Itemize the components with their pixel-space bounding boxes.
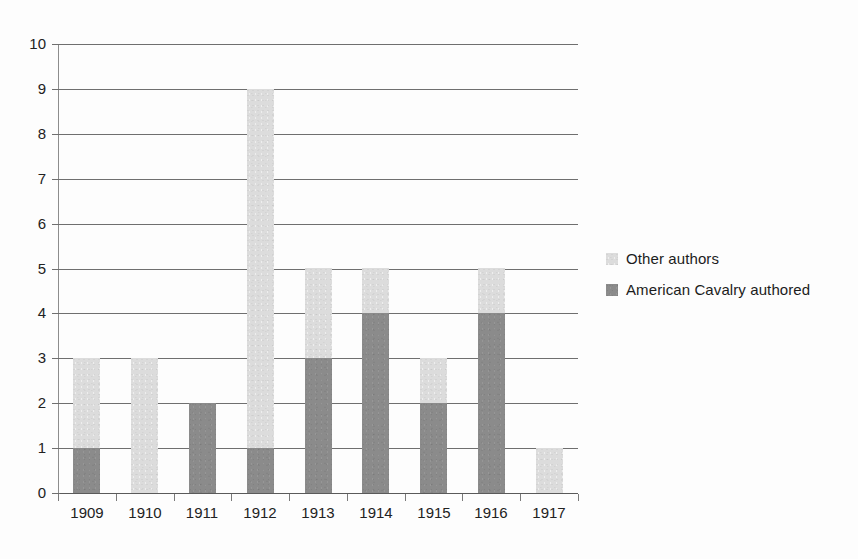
- y-tick-mark-7: [52, 179, 60, 180]
- y-tick-mark-3: [52, 358, 60, 359]
- x-tick-label-1915: 1915: [405, 505, 463, 522]
- bar-segment-american-cavalry-1911[interactable]: [189, 403, 216, 493]
- chart-legend: Other authorsAmerican Cavalry authored: [606, 243, 854, 305]
- bar-group-1912[interactable]: [247, 44, 274, 493]
- y-tick-label: 9: [18, 81, 46, 96]
- x-tick-mark: [405, 494, 406, 501]
- bar-segment-american-cavalry-1909[interactable]: [73, 448, 100, 493]
- y-tick-mark-9: [52, 89, 60, 90]
- legend-item-american-cavalry[interactable]: American Cavalry authored: [606, 274, 854, 305]
- bar-segment-other-authors-1914[interactable]: [362, 268, 389, 313]
- y-tick-label: 6: [18, 216, 46, 231]
- y-tick-mark-4: [52, 313, 60, 314]
- legend-swatch-other-authors-icon: [606, 253, 618, 265]
- bar-group-1916[interactable]: [478, 44, 505, 493]
- bar-segment-american-cavalry-1912[interactable]: [247, 448, 274, 493]
- x-tick-label-1913: 1913: [289, 505, 347, 522]
- y-tick-mark-5: [52, 269, 60, 270]
- bar-segment-american-cavalry-1915[interactable]: [420, 403, 447, 493]
- x-tick-mark: [289, 494, 290, 501]
- x-tick-label-1916: 1916: [462, 505, 520, 522]
- plot-area: [58, 44, 578, 493]
- y-tick-label: 8: [18, 126, 46, 141]
- x-tick-mark: [174, 494, 175, 501]
- y-axis: 012345678910: [0, 0, 46, 559]
- y-tick-label: 7: [18, 171, 46, 186]
- bar-segment-american-cavalry-1913[interactable]: [305, 358, 332, 493]
- x-tick-mark: [347, 494, 348, 501]
- x-tick-label-1911: 1911: [173, 505, 231, 522]
- x-tick-mark: [578, 494, 579, 501]
- legend-label: Other authors: [626, 250, 719, 267]
- x-tick-mark: [520, 494, 521, 501]
- bar-segment-other-authors-1913[interactable]: [305, 268, 332, 358]
- x-tick-label-1917: 1917: [520, 505, 578, 522]
- bar-group-1917[interactable]: [536, 44, 563, 493]
- x-tick-label-1910: 1910: [116, 505, 174, 522]
- bar-group-1914[interactable]: [362, 44, 389, 493]
- gridline-0: [58, 493, 578, 494]
- bar-group-1910[interactable]: [131, 44, 158, 493]
- y-tick-mark-2: [52, 403, 60, 404]
- y-tick-label: 10: [18, 36, 46, 51]
- y-tick-label: 0: [18, 485, 46, 500]
- bar-segment-other-authors-1917[interactable]: [536, 448, 563, 493]
- bar-group-1911[interactable]: [189, 44, 216, 493]
- bar-segment-other-authors-1912[interactable]: [247, 89, 274, 448]
- y-tick-mark-8: [52, 134, 60, 135]
- bar-segment-american-cavalry-1916[interactable]: [478, 313, 505, 493]
- legend-swatch-american-cavalry-icon: [606, 284, 618, 296]
- bar-segment-other-authors-1910[interactable]: [131, 358, 158, 493]
- bar-group-1909[interactable]: [73, 44, 100, 493]
- bar-segment-other-authors-1915[interactable]: [420, 358, 447, 403]
- y-tick-label: 2: [18, 395, 46, 410]
- y-tick-label: 3: [18, 350, 46, 365]
- x-tick-label-1914: 1914: [347, 505, 405, 522]
- x-tick-mark: [58, 494, 59, 501]
- x-tick-mark: [116, 494, 117, 501]
- x-tick-mark: [231, 494, 232, 501]
- bar-segment-other-authors-1916[interactable]: [478, 268, 505, 313]
- y-tick-mark-10: [52, 44, 60, 45]
- legend-label: American Cavalry authored: [626, 281, 810, 298]
- y-tick-label: 1: [18, 440, 46, 455]
- bar-group-1913[interactable]: [305, 44, 332, 493]
- y-tick-label: 4: [18, 305, 46, 320]
- y-tick-label: 5: [18, 261, 46, 276]
- bar-segment-american-cavalry-1914[interactable]: [362, 313, 389, 493]
- x-tick-label-1909: 1909: [58, 505, 116, 522]
- y-tick-mark-0: [52, 493, 60, 494]
- bar-segment-other-authors-1909[interactable]: [73, 358, 100, 448]
- y-tick-mark-1: [52, 448, 60, 449]
- x-tick-mark: [462, 494, 463, 501]
- bar-group-1915[interactable]: [420, 44, 447, 493]
- x-tick-label-1912: 1912: [231, 505, 289, 522]
- y-tick-mark-6: [52, 224, 60, 225]
- stacked-bar-chart: 012345678910 190919101911191219131914191…: [0, 0, 858, 559]
- legend-item-other-authors[interactable]: Other authors: [606, 243, 854, 274]
